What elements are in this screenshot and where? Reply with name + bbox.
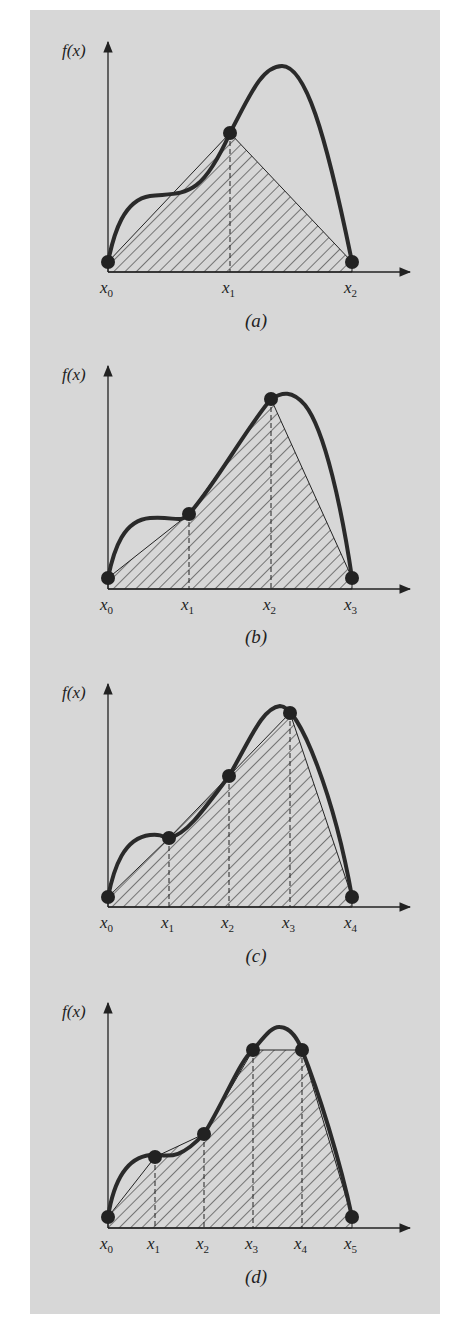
node-point [182, 507, 196, 521]
node-label: x0 [99, 595, 114, 616]
node-label: x0 [99, 1234, 114, 1255]
node-point [295, 1043, 309, 1057]
node-label: x3 [244, 1234, 259, 1255]
node-point [345, 255, 359, 269]
node-point [101, 890, 115, 904]
node-label: x2 [343, 278, 357, 299]
panel-d: f(x)x0x1x2x3x4x5(d) [62, 1002, 410, 1288]
node-label: x0 [99, 913, 114, 934]
node-label: x4 [343, 913, 358, 934]
node-point [246, 1043, 260, 1057]
node-point [222, 769, 236, 783]
node-label: x1 [221, 278, 235, 299]
trapezoid-area [108, 1050, 352, 1228]
node-label: x3 [343, 595, 358, 616]
panel-caption: (a) [245, 310, 267, 332]
node-point [264, 392, 278, 406]
node-label: x3 [281, 913, 296, 934]
node-point [345, 890, 359, 904]
node-point [345, 1210, 359, 1224]
y-axis-label: f(x) [62, 365, 86, 384]
node-label: x5 [343, 1234, 358, 1255]
node-label: x1 [146, 1234, 160, 1255]
node-label: x2 [220, 913, 234, 934]
node-label: x1 [180, 595, 194, 616]
panel-c: f(x)x0x1x2x3x4(c) [62, 683, 410, 967]
node-label: x4 [293, 1234, 308, 1255]
panel-caption: (b) [245, 626, 267, 648]
panel-caption: (c) [245, 945, 266, 967]
y-axis-label: f(x) [62, 1002, 86, 1021]
panel-caption: (d) [245, 1266, 267, 1288]
trapezoid-area [108, 713, 352, 907]
node-label: x1 [160, 913, 174, 934]
node-point [101, 1210, 115, 1224]
y-axis-label: f(x) [62, 41, 86, 60]
y-axis-label: f(x) [62, 683, 86, 702]
node-point [148, 1150, 162, 1164]
panel-a: f(x)x0x1x2(a) [62, 41, 410, 332]
node-point [162, 831, 176, 845]
node-label: x0 [99, 278, 114, 299]
node-point [345, 571, 359, 585]
node-point [283, 706, 297, 720]
trapezoidal-rule-figure: f(x)x0x1x2(a)f(x)x0x1x2x3(b)f(x)x0x1x2x3… [0, 0, 451, 1338]
node-label: x2 [262, 595, 276, 616]
node-point [223, 126, 237, 140]
node-point [197, 1127, 211, 1141]
node-point [101, 571, 115, 585]
node-point [101, 255, 115, 269]
panel-b: f(x)x0x1x2x3(b) [62, 365, 410, 648]
node-label: x2 [195, 1234, 209, 1255]
